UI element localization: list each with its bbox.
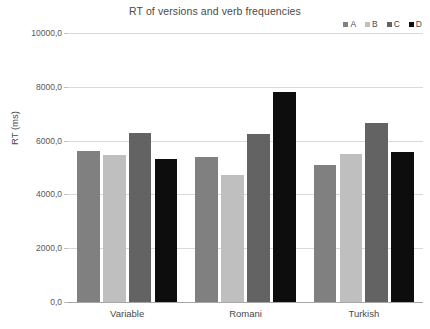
legend-swatch-icon: [343, 22, 348, 27]
chart-legend: ABCD: [343, 20, 422, 29]
y-axis-tick-mark: [64, 194, 68, 195]
legend-swatch-icon: [387, 22, 392, 27]
x-axis-line: [68, 302, 423, 303]
y-axis-title: RT (ms): [9, 111, 20, 145]
y-axis-tick-mark: [64, 87, 68, 88]
y-axis-tick-label: 0,0: [2, 297, 62, 307]
legend-label: A: [350, 20, 356, 29]
legend-label: C: [394, 20, 400, 29]
legend-label: B: [372, 20, 378, 29]
chart-title: RT of versions and verb frequencies: [0, 5, 430, 17]
y-axis-tick-mark: [64, 302, 68, 303]
legend-swatch-icon: [409, 22, 414, 27]
bar-turkish-d[interactable]: [391, 152, 414, 302]
bar-romani-a[interactable]: [195, 157, 218, 302]
bar-variable-c[interactable]: [129, 133, 152, 302]
legend-item-c[interactable]: C: [387, 20, 400, 29]
bar-variable-a[interactable]: [77, 151, 100, 302]
bar-turkish-b[interactable]: [340, 154, 363, 302]
legend-label: D: [416, 20, 422, 29]
y-axis-tick-mark: [64, 141, 68, 142]
bar-turkish-c[interactable]: [365, 123, 388, 302]
bar-variable-b[interactable]: [103, 155, 126, 302]
x-axis-category-label: Variable: [110, 308, 144, 319]
legend-item-d[interactable]: D: [409, 20, 422, 29]
y-axis-tick-mark: [64, 33, 68, 34]
y-axis-tick-mark: [64, 248, 68, 249]
legend-swatch-icon: [365, 22, 370, 27]
legend-item-a[interactable]: A: [343, 20, 356, 29]
bars-layer: [68, 33, 423, 302]
x-axis-category-label: Turkish: [348, 308, 379, 319]
bar-turkish-a[interactable]: [314, 165, 337, 302]
y-axis-tick-label: 8000,0: [2, 82, 62, 92]
y-axis-tick-label: 4000,0: [2, 189, 62, 199]
bar-romani-b[interactable]: [221, 175, 244, 302]
bar-variable-d[interactable]: [155, 159, 178, 302]
x-axis-category-label: Romani: [229, 308, 262, 319]
legend-item-b[interactable]: B: [365, 20, 378, 29]
bar-romani-c[interactable]: [247, 134, 270, 302]
y-axis-tick-label: 2000,0: [2, 243, 62, 253]
bar-chart: RT of versions and verb frequencies ABCD…: [0, 0, 430, 329]
bar-romani-d[interactable]: [273, 92, 296, 302]
y-axis-tick-label: 10000,0: [2, 28, 62, 38]
y-axis-tick-labels: 0,02000,04000,06000,08000,010000,0: [0, 0, 62, 329]
